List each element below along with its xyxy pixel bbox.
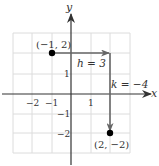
y-axis-label: y <box>65 1 73 14</box>
y-tick-label: −1 <box>57 109 70 119</box>
x-axis-label: x <box>151 87 158 100</box>
x-tick-label: −1 <box>45 98 58 108</box>
h-translation-label: h = 3 <box>77 57 106 69</box>
k-translation-label: k = −4 <box>111 78 148 90</box>
y-tick-label: −2 <box>57 129 70 139</box>
start-point-label: (−1, 2) <box>36 39 71 50</box>
x-tick-label: 1 <box>88 98 94 108</box>
coordinate-diagram: y x −2 −1 1 1 −1 −2 (−1, 2) (2, −2) h = … <box>0 0 159 166</box>
coordinate-plane: y x −2 −1 1 1 −1 −2 (−1, 2) (2, −2) h = … <box>0 0 159 166</box>
y-tick-label: 1 <box>64 69 70 79</box>
end-point <box>107 130 113 136</box>
end-point-label: (2, −2) <box>94 139 129 150</box>
start-point <box>49 50 55 56</box>
x-tick-label: −2 <box>26 98 39 108</box>
